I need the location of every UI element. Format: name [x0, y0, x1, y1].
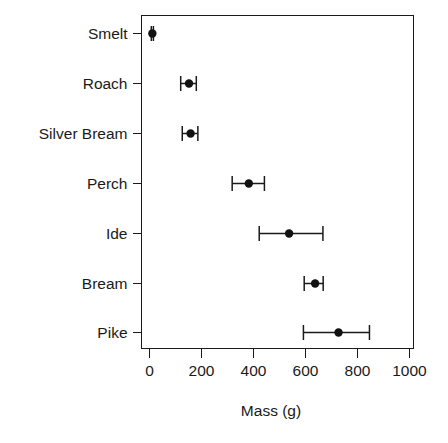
x-axis-tick-label-600: 600 [293, 362, 319, 379]
data-point-group-silver-bream [182, 126, 198, 141]
y-axis-label-smelt: Smelt [88, 25, 128, 42]
data-point-group-pike [303, 325, 369, 340]
plot-frame [142, 16, 414, 349]
x-axis-tick-label-800: 800 [345, 362, 371, 379]
y-axis-label-roach: Roach [83, 75, 128, 92]
x-axis-tick-label-0: 0 [145, 362, 154, 379]
data-point-group-ide [259, 226, 323, 241]
data-point-group-bream [304, 276, 323, 291]
y-axis-label-pike: Pike [97, 324, 127, 341]
mean-point-roach [185, 79, 193, 87]
data-point-group-perch [232, 176, 264, 191]
x-axis-tick-labels: 02004006008001000 [145, 362, 427, 379]
mean-point-perch [245, 179, 253, 187]
x-axis-tick-label-1000: 1000 [392, 362, 427, 379]
mean-point-smelt [148, 29, 156, 37]
x-axis-tick-label-200: 200 [189, 362, 215, 379]
x-axis-ticks [150, 349, 410, 358]
chart-figure: SmeltRoachSilver BreamPerchIdeBreamPike … [0, 0, 448, 443]
data-point-group-smelt [148, 26, 156, 41]
x-axis-tick-label-400: 400 [241, 362, 267, 379]
y-axis-ticks [133, 34, 142, 333]
mean-point-pike [334, 328, 342, 336]
x-axis-title: Mass (g) [241, 402, 301, 419]
mean-point-ide [285, 229, 293, 237]
y-axis-label-silver-bream: Silver Bream [39, 125, 128, 142]
y-axis-label-perch: Perch [87, 175, 128, 192]
y-axis-labels: SmeltRoachSilver BreamPerchIdeBreamPike [39, 25, 128, 341]
y-axis-label-ide: Ide [106, 225, 128, 242]
mean-point-bream [311, 279, 319, 287]
dot-plot-with-error-bars: SmeltRoachSilver BreamPerchIdeBreamPike … [0, 0, 448, 443]
data-point-group-roach [181, 76, 197, 91]
y-axis-label-bream: Bream [82, 275, 128, 292]
mean-point-silver-bream [186, 129, 194, 137]
data-series [148, 26, 369, 340]
